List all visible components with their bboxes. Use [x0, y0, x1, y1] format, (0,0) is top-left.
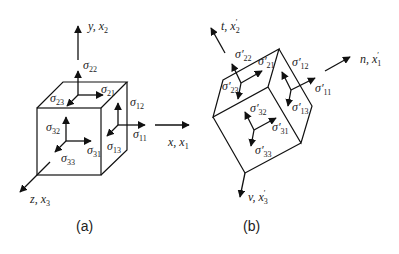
- sigma33p-label: σ′33: [255, 143, 272, 159]
- sigma31-label: σ31: [87, 143, 101, 159]
- figure-a: y, x2 x, x1 z, x3 σ22 σ21 σ23 σ12 σ11 σ1…: [20, 19, 189, 234]
- sigma13-arrow: [107, 125, 118, 136]
- sigma33p-arrow: [251, 130, 254, 146]
- sigma22-label: σ22: [83, 58, 97, 74]
- sigma13p-arrow: [288, 90, 291, 106]
- n-axis-arrow: [325, 57, 350, 71]
- sigma23-arrow: [67, 95, 78, 106]
- sigma33-label: σ33: [61, 151, 75, 167]
- sigma11p-label: σ′11: [315, 81, 331, 97]
- x-axis-label: x, x1: [167, 135, 189, 151]
- v-axis-label: v, x3′: [248, 189, 268, 206]
- sigma21-label: σ21: [101, 82, 115, 98]
- stress-diagram: y, x2 x, x1 z, x3 σ22 σ21 σ23 σ12 σ11 σ1…: [0, 0, 399, 254]
- caption-a: (a): [76, 218, 93, 234]
- caption-b: (b): [243, 218, 260, 234]
- sigma32p-label: σ′32: [250, 101, 267, 117]
- sigma13-label: σ13: [107, 139, 121, 155]
- sigma22p-label: σ′22: [235, 47, 252, 63]
- sigma23p-label: σ′23: [222, 79, 239, 95]
- sigma11p-arrow: [291, 78, 315, 90]
- sigma31p-label: σ′31: [272, 120, 289, 136]
- sigma22p-arrow: [232, 64, 241, 83]
- sigma12p-label: σ′12: [292, 55, 309, 71]
- n-axis-label: n, x1′: [360, 51, 381, 68]
- z-axis-arrow: [20, 162, 50, 192]
- t-axis-label: t, x2′: [221, 18, 240, 35]
- sigma21p-label: σ′21: [258, 54, 275, 70]
- sigma21p-arrow: [241, 71, 262, 83]
- sigma13p-label: σ′13: [292, 100, 309, 116]
- sigma12p-arrow: [282, 72, 291, 90]
- figure-b: t, x2′ n, x1′ v, x3′ σ′22 σ′21 σ′23 σ′12…: [211, 18, 381, 234]
- sigma12-label: σ12: [130, 95, 144, 111]
- sigma32-label: σ32: [46, 120, 60, 136]
- z-axis-label: z, x3: [29, 192, 50, 208]
- v-axis-arrow: [240, 173, 245, 197]
- sigma23-label: σ23: [50, 91, 64, 107]
- y-axis-label: y, x2: [87, 19, 108, 35]
- sigma11-label: σ11: [133, 127, 147, 143]
